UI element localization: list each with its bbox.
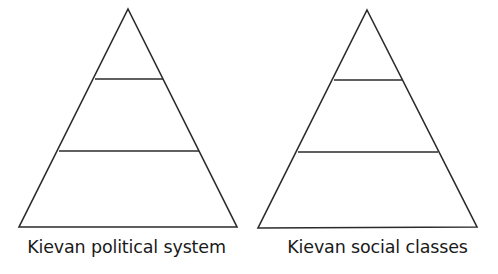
pyramid-outline-left [19,9,237,227]
pyramid-diagrams-canvas [0,0,498,274]
caption-cell-right: Kievan social classes [247,236,498,274]
caption-layer: Kievan political system Kievan social cl… [0,236,498,274]
pyramid-kievan-social-classes [258,10,477,228]
pyramid-outline-right [258,10,477,228]
pyramid-kievan-political-system [19,9,237,227]
caption-kievan-political-system: Kievan political system [27,236,226,258]
figure-root: Kievan political system Kievan social cl… [0,0,498,274]
caption-kievan-social-classes: Kievan social classes [287,236,467,258]
caption-cell-left: Kievan political system [0,236,247,274]
